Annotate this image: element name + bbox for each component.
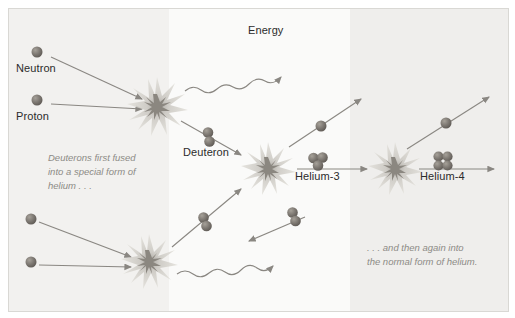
caption-left: Deuterons first fused into a special for… <box>48 151 136 192</box>
label-deuteron: Deuteron <box>183 146 229 158</box>
caption-right: . . . and then again into the normal for… <box>367 241 477 269</box>
neutron-particle-lower <box>26 214 37 225</box>
ejected-particle-right <box>441 118 452 129</box>
fusion-burst-upper <box>127 77 188 136</box>
input-arrows-top <box>51 57 142 109</box>
fusion-burst-right <box>368 142 423 195</box>
diagram-canvas: Neutron Proton Energy Deuteron Helium-3 … <box>0 0 515 318</box>
ejected-particle-upper <box>316 121 327 132</box>
energy-wave-lower <box>177 265 273 276</box>
neutron-particle <box>32 47 43 58</box>
proton-particle-lower <box>26 257 37 268</box>
deuteron-cluster-upper <box>203 127 215 147</box>
fusion-burst-middle <box>241 142 296 195</box>
helium4-cluster <box>433 151 452 170</box>
label-helium3: Helium-3 <box>295 170 340 182</box>
fusion-burst-lower <box>121 234 178 289</box>
label-neutron: Neutron <box>16 62 56 74</box>
energy-wave-upper <box>185 77 281 93</box>
label-energy: Energy <box>248 24 283 36</box>
helium3-cluster <box>308 152 328 171</box>
label-helium4: Helium-4 <box>420 170 465 182</box>
input-arrows-bottom <box>39 222 131 267</box>
diagram-frame: Neutron Proton Energy Deuteron Helium-3 … <box>8 8 509 312</box>
label-proton: Proton <box>16 110 49 122</box>
proton-particle <box>32 95 43 106</box>
